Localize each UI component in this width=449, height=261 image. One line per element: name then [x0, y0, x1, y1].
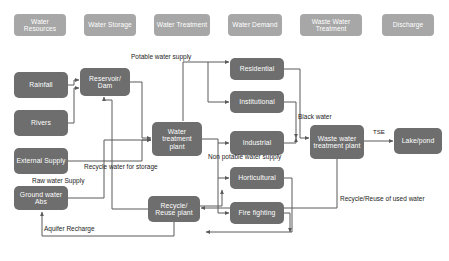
node-external-supply: External Supply — [14, 148, 68, 174]
node-waste-water-treatment-plant: Waste water treatment plant — [310, 125, 364, 159]
header-water-demand: Water Demand — [228, 14, 282, 36]
header-discharge: Discharge — [382, 14, 434, 36]
node-horticultural: Horticultural — [230, 167, 284, 189]
node-institutional: Institutional — [230, 91, 284, 113]
node-residential: Residential — [230, 58, 284, 80]
label-recycle-water-for-storage: Recycle water for storage — [84, 164, 158, 171]
node-reservoir-dam: Reservoir/ Dam — [80, 68, 130, 96]
label-tse: TSE — [373, 129, 385, 135]
label-black-water: Black water — [298, 114, 332, 121]
header-water-treatment: Water Treatment — [154, 14, 210, 36]
label-aquifer-recharge: Aquifer Recharge — [44, 226, 95, 233]
label-recycle-reuse-of-used-water: Recycle/Reuse of used water — [340, 196, 425, 203]
label-potable-water-supply: Potable water supply — [131, 54, 191, 61]
node-rainfall: Rainfall — [14, 72, 68, 98]
label-raw-water-supply: Raw water Supply — [32, 178, 84, 185]
node-fire-fighting: Fire fighting — [230, 202, 284, 224]
header-water-resources: Water Resources — [14, 14, 66, 36]
node-industrial: Industrial — [230, 131, 284, 155]
node-ground-water-abs: Ground water Abs — [14, 186, 68, 210]
diagram-canvas: Water Resources Water Storage Water Trea… — [0, 0, 449, 261]
node-rivers: Rivers — [14, 110, 68, 136]
node-water-treatment-plant: Water treatment plant — [152, 122, 202, 156]
header-waste-water-treatment: Waste Water Treatment — [300, 14, 362, 36]
header-water-storage: Water Storage — [84, 14, 136, 36]
node-recycle-reuse-plant: Recycle/ Reuse plant — [148, 196, 200, 222]
node-lake-pond: Lake/pond — [394, 128, 442, 154]
label-non-potable-water-supply: Non potable water supply — [208, 154, 281, 161]
